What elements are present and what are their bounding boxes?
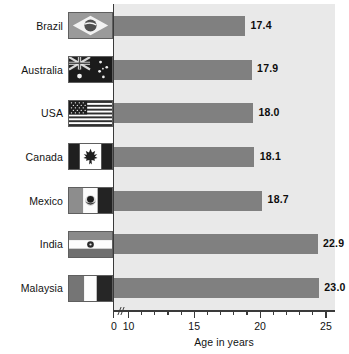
category-label: Australia: [21, 64, 68, 76]
category-row-india: India: [0, 223, 113, 267]
x-axis-line: [113, 310, 335, 312]
x-tick-minor: [220, 310, 221, 315]
bar-value-brazil: 17.4: [251, 19, 272, 31]
category-row-mexico: Mexico: [0, 179, 113, 223]
flag-usa-icon: [68, 100, 113, 127]
bar-value-india: 22.9: [323, 237, 344, 249]
category-label: USA: [41, 107, 68, 119]
bar-usa: [114, 103, 253, 123]
x-tick-label: 20: [254, 320, 266, 332]
x-tick-label: 10: [123, 320, 135, 332]
flag-malaysia-icon: [68, 275, 113, 302]
bar-brazil: [114, 16, 245, 36]
bar-chart: Brazil Australia: [0, 0, 349, 354]
x-tick-minor: [154, 310, 155, 315]
x-tick-major: [194, 310, 195, 318]
x-tick-labels: 0 10 15 20 25: [113, 320, 343, 334]
category-label: India: [40, 238, 68, 250]
x-tick-label: 25: [320, 320, 332, 332]
flag-australia-icon: [68, 56, 113, 83]
x-tick-minor: [141, 310, 142, 315]
bar-australia: [114, 60, 252, 80]
category-label: Malaysia: [21, 282, 68, 294]
flag-india-icon: [68, 231, 113, 258]
category-axis: Brazil Australia: [0, 4, 113, 310]
axis-break-marker: [119, 307, 126, 315]
bar-malaysia: [114, 278, 319, 298]
x-axis-title: Age in years: [113, 336, 335, 348]
x-tick-minor: [233, 310, 234, 315]
category-label: Canada: [26, 151, 68, 163]
category-label: Brazil: [36, 20, 68, 32]
x-tick-label: 15: [188, 320, 200, 332]
category-row-canada: Canada: [0, 135, 113, 179]
bar-value-canada: 18.1: [260, 150, 281, 162]
x-tick-minor: [286, 310, 287, 315]
x-tick-major: [128, 310, 129, 318]
x-tick-minor: [207, 310, 208, 315]
x-tick-label: 0: [111, 320, 117, 332]
x-tick-major: [260, 310, 261, 318]
x-tick-minor: [273, 310, 274, 315]
x-tick-major: [113, 310, 114, 318]
category-row-usa: USA: [0, 91, 113, 135]
bar-value-mexico: 18.7: [268, 193, 289, 205]
bar-india: [114, 234, 318, 254]
bar-mexico: [114, 191, 262, 211]
x-tick-minor: [181, 310, 182, 315]
bar-value-australia: 17.9: [257, 62, 278, 74]
plot-area: 17.4 17.9 18.0 18.1 18.7 22.9 23.0: [113, 4, 335, 310]
category-label: Mexico: [29, 195, 68, 207]
x-tick-major: [325, 310, 326, 318]
x-tick-minor: [299, 310, 300, 315]
flag-mexico-icon: [68, 187, 113, 214]
x-tick-minor: [167, 310, 168, 315]
flag-canada-icon: [68, 143, 113, 170]
category-row-brazil: Brazil: [0, 4, 113, 48]
bar-canada: [114, 147, 254, 167]
bar-value-usa: 18.0: [258, 106, 279, 118]
x-tick-minor: [246, 310, 247, 315]
category-row-malaysia: Malaysia: [0, 266, 113, 310]
bar-value-malaysia: 23.0: [324, 281, 345, 293]
category-row-australia: Australia: [0, 48, 113, 92]
x-tick-minor: [312, 310, 313, 315]
flag-brazil-icon: [68, 12, 113, 39]
